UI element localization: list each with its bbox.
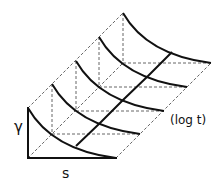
s-label: s — [62, 165, 69, 181]
front-face — [27, 107, 117, 159]
diagram-canvas: γ s (log t) — [0, 0, 221, 186]
gamma-label: γ — [14, 118, 23, 136]
log-t-label: (log t) — [170, 113, 206, 127]
curve-1 — [28, 108, 116, 158]
curve-5 — [123, 13, 211, 63]
decay-curves — [28, 13, 211, 158]
